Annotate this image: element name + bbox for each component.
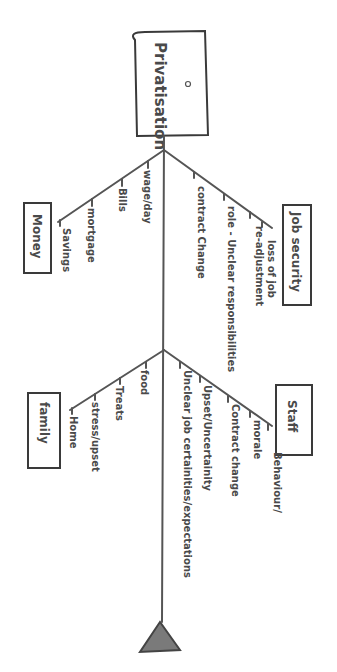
fishbone-diagram: Privatisation Job security loss of job r… (0, 0, 337, 672)
cause-morale: morale (252, 420, 263, 459)
cause-contract-change: contract Change (196, 186, 207, 279)
cause-mortgage: mortgage (86, 208, 97, 263)
bone-job-security (164, 150, 272, 228)
svg-text:Job security: Job security (289, 211, 303, 292)
tail-triangle (140, 622, 180, 652)
decorative-circle-icon (186, 82, 191, 87)
svg-text:family: family (37, 402, 51, 444)
category-box-staff: Staff (276, 385, 312, 455)
cause-behaviour: Behaviour/ (272, 452, 283, 513)
cause-contract-change-staff: Contract change (230, 404, 241, 497)
category-box-job-security: Job security (283, 205, 311, 305)
cause-food: food (139, 370, 150, 395)
cause-upset-uncertainity: Upset/Uncertainity (202, 385, 213, 492)
cause-bills: Bills (117, 188, 128, 212)
cause-re-adjustment: re-adjustment (254, 226, 265, 306)
head-label: Privatisation (151, 42, 169, 150)
cause-role-unclear: role - Unclear responsibilities (226, 206, 237, 372)
head-box: Privatisation (133, 31, 208, 150)
cause-wage-day: wage/day (142, 170, 153, 224)
category-box-family: family (28, 393, 60, 468)
cause-loss-of-job: loss of job (266, 240, 277, 298)
svg-text:Staff: Staff (285, 400, 299, 432)
spine-line (162, 136, 164, 622)
cause-treats: Treats (114, 386, 125, 421)
cause-home: Home (68, 416, 79, 449)
category-box-money: Money (24, 203, 51, 273)
cause-savings: Savings (61, 228, 72, 272)
svg-text:Money: Money (30, 214, 44, 259)
cause-stress-upset: stress/upset (90, 402, 101, 472)
cause-unclear-job-certainities: Unclear job certainities/expectations (182, 370, 193, 578)
